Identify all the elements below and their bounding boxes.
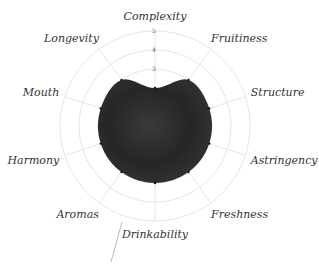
data-point-astringency (208, 142, 210, 144)
axis-label-mouth: Mouth (22, 86, 59, 99)
axis-label-freshness: Freshness (210, 208, 268, 221)
axis-label-fruitiness: Fruitiness (210, 32, 268, 45)
data-point-freshness (187, 171, 189, 173)
tick-label-5: 5 (152, 27, 156, 34)
axis-label-longevity: Longevity (43, 32, 100, 45)
axis-label-drinkability: Drinkability (121, 228, 189, 241)
tick-label-3: 3 (152, 65, 156, 72)
decorative-pen-stroke (111, 222, 122, 262)
axis-label-astringency: Astringency (250, 154, 319, 167)
axis-label-aromas: Aromas (55, 208, 99, 221)
radial-tick-labels: 345 (152, 27, 156, 72)
radar-chart: 345 ComplexityFruitinessStructureAstring… (0, 0, 319, 269)
data-point-aromas (120, 171, 122, 173)
data-point-fruitiness (187, 79, 189, 81)
data-point-harmony (100, 142, 102, 144)
data-series-area (98, 79, 212, 183)
data-point-drinkability (154, 182, 156, 184)
data-point-complexity (154, 87, 156, 89)
axis-label-harmony: Harmony (7, 154, 61, 167)
data-point-structure (208, 107, 210, 109)
axis-label-complexity: Complexity (124, 10, 188, 23)
axis-label-structure: Structure (251, 86, 305, 99)
data-area (98, 79, 212, 185)
tick-label-4: 4 (152, 46, 156, 53)
data-point-mouth (100, 107, 102, 109)
data-point-longevity (120, 79, 122, 81)
